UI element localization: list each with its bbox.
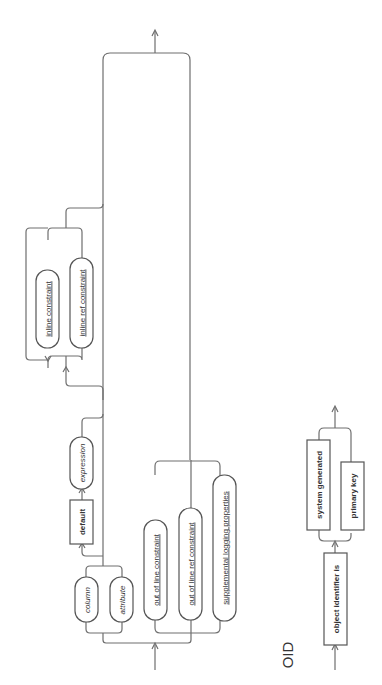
choice-attribute[interactable]: attribute (110, 577, 133, 622)
out-of-line-ref-constraint-label: out of line ref constraint (187, 522, 196, 606)
inline-ref-constraint-pill[interactable]: inline ref constraint (70, 258, 93, 348)
out-of-line-ref-constraint-pill[interactable]: out of line ref constraint (179, 508, 202, 620)
out-of-line-constraint-label: out of line constraint (152, 533, 161, 605)
supplemental-logging-properties-pill[interactable]: supplemental logging properties (213, 475, 236, 621)
inline-constraint-pill[interactable]: inline constraint (36, 270, 59, 348)
oid-title: OID (279, 642, 296, 669)
attribute-label: attribute (118, 585, 127, 614)
system-generated-label: system generated (315, 451, 324, 519)
inline-constraint-label: inline constraint (44, 280, 53, 336)
choice-system-generated[interactable]: system generated (307, 440, 330, 530)
supplemental-logging-properties-label: supplemental logging properties (221, 491, 230, 604)
syntax-diagram: column attribute default expression inli… (0, 0, 382, 685)
object-identifier-is-label: object identifier is (332, 564, 341, 633)
inline-ref-constraint-label: inline ref constraint (78, 269, 87, 337)
choice-column[interactable]: column (75, 577, 98, 622)
keyword-default[interactable]: default (70, 500, 93, 544)
keyword-object-identifier-is[interactable]: object identifier is (324, 553, 347, 645)
out-of-line-constraint-pill[interactable]: out of line constraint (144, 520, 167, 620)
primary-key-label: primary key (349, 473, 358, 518)
default-label: default (78, 509, 87, 536)
expression-label: expression (78, 443, 87, 482)
expression-pill[interactable]: expression (70, 437, 93, 489)
column-label: column (83, 587, 92, 613)
choice-primary-key[interactable]: primary key (341, 462, 364, 530)
